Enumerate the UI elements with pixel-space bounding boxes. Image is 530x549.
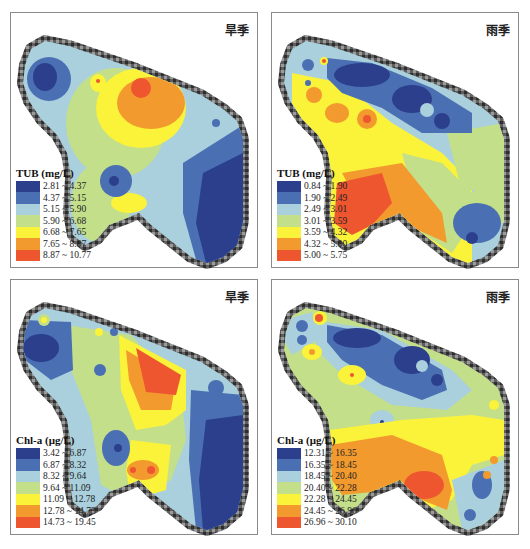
legend-range: 2.81 ~ 4.37 [43,181,86,191]
legend-range: 6.68 ~ 7.65 [43,227,86,237]
legend-swatch [16,250,40,262]
legend-swatch [277,227,301,239]
legend-row: 3.01 ~ 3.59 [277,215,347,227]
legend-range: 3.59 ~ 4.32 [304,227,347,237]
panel-chla-wet: 雨季 Chl-a (μg/L) 12.31 ~ 16.35 16.35 ~ 18… [271,279,519,535]
legend-swatch [277,448,301,460]
legend-range: 9.64 ~ 11.09 [43,483,91,493]
legend-swatch [16,459,40,471]
legend-swatch [16,238,40,250]
legend-swatch [16,517,40,529]
legend-row: 8.32 ~ 9.64 [16,471,96,483]
legend: Chl-a (μg/L) 12.31 ~ 16.35 16.35 ~ 18.45… [277,434,357,529]
legend-swatch [16,482,40,494]
legend-row: 22.28 ~ 24.45 [277,494,357,506]
legend-row: 3.42 ~ 6.87 [16,448,96,460]
legend-row: 14.73 ~ 19.45 [16,517,96,529]
legend-swatch [277,204,301,216]
legend-swatch [16,448,40,460]
legend-swatch [277,215,301,227]
legend-row: 5.90 ~ 6.68 [16,215,91,227]
legend-swatch [277,238,301,250]
legend-row: 2.81 ~ 4.37 [16,181,91,193]
legend-row: 26.96 ~ 30.10 [277,517,357,529]
legend-row: 9.64 ~ 11.09 [16,482,96,494]
legend-row: 11.09 ~ 12.78 [16,494,96,506]
legend-range: 16.35 ~ 18.45 [304,460,357,470]
panel-tub-wet: 雨季 TUB (mg/L) 0.84 ~ 1.90 1.90 ~ 2.49 2.… [271,12,519,268]
legend-range: 14.73 ~ 19.45 [43,517,96,527]
legend-swatch [277,505,301,517]
season-label: 雨季 [486,21,510,39]
legend-swatch [277,250,301,262]
legend: TUB (mg/L) 0.84 ~ 1.90 1.90 ~ 2.49 2.49 … [277,167,347,262]
legend-range: 20.40 ~ 22.28 [304,483,357,493]
legend-range: 0.84 ~ 1.90 [304,181,347,191]
legend-row: 12.31 ~ 16.35 [277,448,357,460]
legend-swatch [16,204,40,216]
legend-range: 12.31 ~ 16.35 [304,448,357,458]
legend-range: 18.45 ~ 20.40 [304,471,357,481]
legend-swatch [16,192,40,204]
legend-range: 5.00 ~ 5.75 [304,250,347,260]
legend-row: 6.68 ~ 7.65 [16,227,91,239]
legend-row: 5.00 ~ 5.75 [277,250,347,262]
legend-range: 1.90 ~ 2.49 [304,193,347,203]
legend-title: TUB (mg/L) [277,167,347,179]
legend-title: TUB (mg/L) [16,167,91,179]
legend-range: 3.01 ~ 3.59 [304,216,347,226]
legend-row: 7.65 ~ 8.87 [16,238,91,250]
legend-swatch [16,181,40,193]
season-label: 旱季 [225,288,249,306]
legend-range: 2.49 ~ 3.01 [304,204,347,214]
legend-range: 4.37 ~ 5.15 [43,193,86,203]
legend-row: 6.87 ~ 8.32 [16,459,96,471]
legend-row: 8.87 ~ 10.77 [16,250,91,262]
legend-range: 7.65 ~ 8.87 [43,239,86,249]
legend-range: 22.28 ~ 24.45 [304,494,357,504]
legend-range: 6.87 ~ 8.32 [43,460,86,470]
legend-row: 5.15 ~ 5.90 [16,204,91,216]
legend-row: 24.45 ~ 26.96 [277,505,357,517]
legend-row: 2.49 ~ 3.01 [277,204,347,216]
legend-range: 26.96 ~ 30.10 [304,517,357,527]
legend-row: 20.40 ~ 22.28 [277,482,357,494]
legend-row: 4.32 ~ 5.00 [277,238,347,250]
legend-swatch [277,459,301,471]
legend-row: 12.78 ~ 14.73 [16,505,96,517]
legend-range: 4.32 ~ 5.00 [304,239,347,249]
legend-range: 24.45 ~ 26.96 [304,506,357,516]
legend-range: 5.90 ~ 6.68 [43,216,86,226]
legend-range: 8.32 ~ 9.64 [43,471,86,481]
legend-range: 3.42 ~ 6.87 [43,448,86,458]
legend-range: 8.87 ~ 10.77 [43,250,91,260]
legend-row: 16.35 ~ 18.45 [277,459,357,471]
legend-title: Chl-a (μg/L) [277,434,357,446]
legend-row: 0.84 ~ 1.90 [277,181,347,193]
legend: Chl-a (μg/L) 3.42 ~ 6.87 6.87 ~ 8.32 8.3… [16,434,96,529]
season-label: 旱季 [225,21,249,39]
legend-swatch [16,471,40,483]
legend-row: 4.37 ~ 5.15 [16,192,91,204]
legend-swatch [16,494,40,506]
legend-range: 11.09 ~ 12.78 [43,494,95,504]
legend-row: 18.45 ~ 20.40 [277,471,357,483]
season-label: 雨季 [486,288,510,306]
legend-swatch [16,227,40,239]
legend-swatch [277,517,301,529]
legend-title: Chl-a (μg/L) [16,434,96,446]
panel-tub-dry: 旱季 TUB (mg/L) 2.81 ~ 4.37 4.37 ~ 5.15 5.… [10,12,258,268]
legend-swatch [16,215,40,227]
legend-range: 12.78 ~ 14.73 [43,506,96,516]
panel-chla-dry: 旱季 Chl-a (μg/L) 3.42 ~ 6.87 6.87 ~ 8.32 … [10,279,258,535]
legend-swatch [277,192,301,204]
legend-swatch [277,494,301,506]
legend-swatch [277,181,301,193]
legend-swatch [16,505,40,517]
legend-swatch [277,482,301,494]
legend-swatch [277,471,301,483]
legend-row: 1.90 ~ 2.49 [277,192,347,204]
legend-row: 3.59 ~ 4.32 [277,227,347,239]
legend-range: 5.15 ~ 5.90 [43,204,86,214]
legend: TUB (mg/L) 2.81 ~ 4.37 4.37 ~ 5.15 5.15 … [16,167,91,262]
